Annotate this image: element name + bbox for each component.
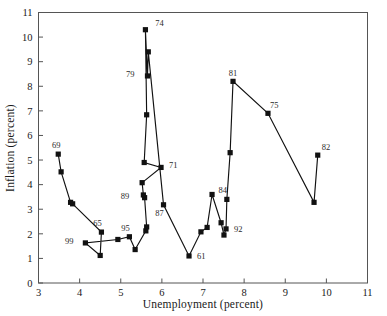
y-tick-label: 8 <box>27 81 32 92</box>
x-tick-label: 6 <box>159 287 164 298</box>
data-point-marker <box>133 247 138 252</box>
data-point-label: 74 <box>155 18 164 28</box>
phillips-curve-figure: 34567891011 01234567891011 6999659589876… <box>0 0 387 316</box>
data-point-label: 92 <box>234 224 243 234</box>
y-tick-label: 5 <box>27 155 32 166</box>
data-point-marker <box>98 253 103 258</box>
data-point-marker <box>161 202 166 207</box>
x-tick-label: 4 <box>77 287 83 298</box>
y-tick-label: 10 <box>22 32 33 43</box>
y-tick-label: 0 <box>27 278 32 289</box>
data-point-marker <box>205 225 210 230</box>
data-point-label: 99 <box>65 236 74 246</box>
data-point-marker <box>127 234 132 239</box>
data-point-marker <box>224 197 229 202</box>
data-point-marker <box>230 79 235 84</box>
data-point-marker <box>228 150 233 155</box>
data-point-marker <box>141 192 146 197</box>
x-tick-label: 10 <box>321 287 332 298</box>
x-tick-label: 11 <box>362 287 372 298</box>
y-tick-label: 4 <box>27 179 33 190</box>
data-point-marker <box>265 111 270 116</box>
y-axis-title: Inflation (percent) <box>4 104 17 192</box>
data-point-marker <box>144 224 149 229</box>
chart-background <box>0 0 387 316</box>
data-point-marker <box>56 152 61 157</box>
y-tick-label: 2 <box>27 229 32 240</box>
x-tick-label: 9 <box>283 287 288 298</box>
data-point-label: 79 <box>126 69 135 79</box>
data-point-label: 82 <box>322 142 331 152</box>
data-point-marker <box>198 229 203 234</box>
data-point-marker <box>145 73 150 78</box>
x-tick-label: 5 <box>118 287 123 298</box>
data-point-marker <box>146 49 151 54</box>
x-tick-label: 8 <box>242 287 247 298</box>
data-point-marker <box>311 200 316 205</box>
y-tick-label: 7 <box>27 106 32 117</box>
data-point-marker <box>223 226 228 231</box>
data-point-marker <box>219 220 224 225</box>
data-point-label: 95 <box>121 223 130 233</box>
x-tick-label: 3 <box>36 287 41 298</box>
data-point-marker <box>144 112 149 117</box>
data-point-label: 69 <box>52 140 61 150</box>
data-point-label: 89 <box>121 191 130 201</box>
y-tick-label: 6 <box>27 130 32 141</box>
data-point-label: 75 <box>270 100 279 110</box>
data-point-marker <box>315 153 320 158</box>
data-point-marker <box>99 230 104 235</box>
data-point-label: 84 <box>219 185 228 195</box>
data-point-marker <box>221 232 226 237</box>
data-point-marker <box>115 237 120 242</box>
data-point-marker <box>140 180 145 185</box>
y-tick-label: 11 <box>22 7 32 18</box>
data-point-marker <box>158 165 163 170</box>
data-point-marker <box>59 169 64 174</box>
x-axis-title: Unemployment (percent) <box>143 298 263 311</box>
data-point-label: 71 <box>169 160 178 170</box>
data-point-marker <box>143 27 148 32</box>
data-point-marker <box>83 240 88 245</box>
y-tick-label: 9 <box>27 56 32 67</box>
data-point-marker <box>70 201 75 206</box>
y-tick-label: 1 <box>27 253 32 264</box>
x-tick-label: 7 <box>200 287 205 298</box>
data-point-marker <box>186 253 191 258</box>
y-tick-label: 3 <box>27 204 32 215</box>
data-point-marker <box>142 160 147 165</box>
data-point-marker <box>209 192 214 197</box>
chart-canvas: 34567891011 01234567891011 6999659589876… <box>0 0 387 316</box>
data-point-label: 61 <box>197 251 206 261</box>
data-point-label: 81 <box>229 68 238 78</box>
data-point-label: 87 <box>155 208 164 218</box>
data-point-label: 65 <box>93 218 102 228</box>
